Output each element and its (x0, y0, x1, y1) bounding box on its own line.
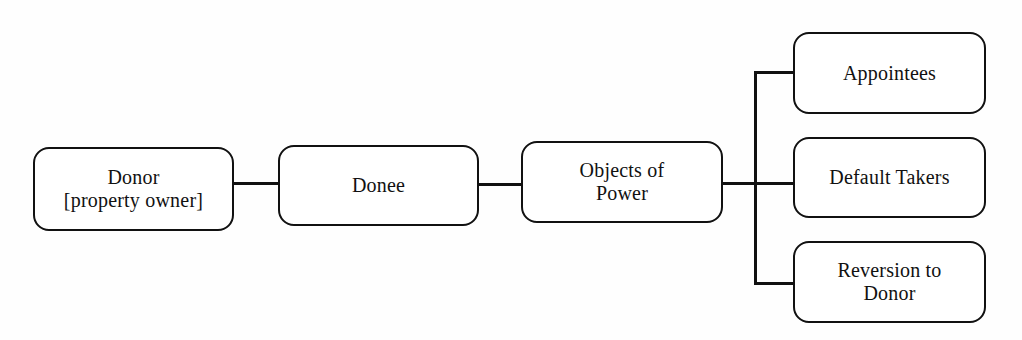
connector-branch-appointees (754, 71, 795, 74)
connector-branch-default-takers (754, 182, 795, 185)
connector-branch-bus (754, 72, 757, 284)
node-reversion-to-donor[interactable]: Reversion to Donor (793, 241, 986, 323)
node-donor[interactable]: Donor [property owner] (33, 147, 234, 231)
node-objects-of-power-label: Objects of Power (572, 159, 673, 205)
connector-donee-to-objects (477, 183, 523, 186)
node-donor-label: Donor [property owner] (56, 166, 211, 212)
node-donee-label: Donee (344, 174, 413, 197)
diagram-canvas: Donor [property owner] Donee Objects of … (0, 0, 1022, 340)
node-reversion-to-donor-label: Reversion to Donor (829, 259, 949, 305)
connector-branch-reversion (754, 282, 795, 285)
connector-objects-to-branches (721, 182, 757, 185)
node-appointees-label: Appointees (835, 62, 944, 85)
node-donee[interactable]: Donee (278, 145, 479, 226)
node-objects-of-power[interactable]: Objects of Power (521, 141, 723, 223)
node-default-takers[interactable]: Default Takers (793, 137, 986, 218)
node-appointees[interactable]: Appointees (793, 32, 986, 114)
connector-donor-to-donee (232, 182, 280, 185)
node-default-takers-label: Default Takers (821, 166, 957, 189)
